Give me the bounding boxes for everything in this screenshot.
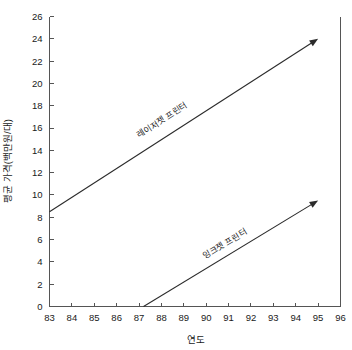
y-tick-label: 14	[32, 145, 43, 156]
x-tick-label: 85	[89, 312, 100, 323]
series-arrowhead-0	[309, 39, 318, 46]
y-tick-label: 22	[32, 56, 43, 67]
x-tick-label: 94	[290, 312, 301, 323]
y-tick-label: 4	[37, 256, 42, 267]
y-tick-label: 8	[37, 212, 42, 223]
series-label-1: 잉크젯 프린터	[201, 226, 249, 261]
x-tick-label: 92	[246, 312, 257, 323]
x-tick-label: 84	[67, 312, 78, 323]
series-lines	[50, 42, 314, 306]
series-line-0	[50, 42, 314, 212]
y-tick-label: 26	[32, 11, 43, 22]
x-tick-label: 95	[313, 312, 324, 323]
x-axis-title: 연도	[187, 334, 205, 345]
series-arrowhead-1	[309, 201, 318, 208]
x-tick-label: 86	[111, 312, 122, 323]
y-axis-tick-labels: 02468101214161820222426	[32, 11, 43, 312]
y-tick-label: 18	[32, 100, 43, 111]
chart-container: 02468101214161820222426 8384858687888990…	[0, 0, 352, 350]
x-axis-tick-labels: 8384858687888990919293949596	[44, 312, 346, 323]
y-tick-label: 24	[32, 33, 43, 44]
y-tick-label: 0	[37, 301, 42, 312]
x-tick-label: 91	[223, 312, 234, 323]
series-label-0: 레이저젯 프린터	[135, 100, 189, 140]
series-line-1	[144, 204, 313, 307]
y-tick-label: 12	[32, 167, 43, 178]
y-tick-label: 2	[37, 279, 42, 290]
series-annotations: 레이저젯 프린터잉크젯 프린터	[135, 100, 249, 261]
line-chart: 02468101214161820222426 8384858687888990…	[0, 0, 352, 350]
x-axis-ticks	[50, 303, 341, 307]
y-tick-label: 20	[32, 78, 43, 89]
x-tick-label: 88	[156, 312, 167, 323]
x-tick-label: 90	[201, 312, 212, 323]
x-tick-label: 89	[179, 312, 190, 323]
series-arrowheads	[309, 39, 318, 208]
y-axis-ticks	[50, 17, 54, 307]
plot-frame	[50, 17, 341, 307]
x-tick-label: 96	[335, 312, 346, 323]
y-tick-label: 10	[32, 189, 43, 200]
y-axis-title: 평균 가격(백만원/대)	[2, 119, 13, 203]
x-tick-label: 83	[44, 312, 55, 323]
y-tick-label: 6	[37, 234, 42, 245]
x-tick-label: 93	[268, 312, 279, 323]
y-tick-label: 16	[32, 122, 43, 133]
x-tick-label: 87	[134, 312, 145, 323]
